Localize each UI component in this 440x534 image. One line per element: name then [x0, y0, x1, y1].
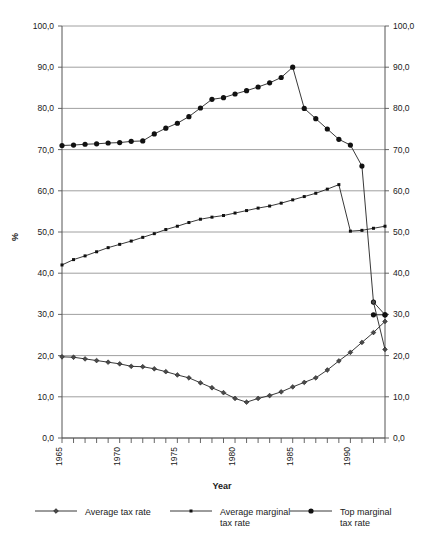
data-point-marker: [308, 508, 313, 513]
data-point-marker: [186, 375, 191, 380]
legend-item-2[interactable]: Top marginaltax rate: [290, 507, 392, 528]
x-tickmarks-group: [62, 438, 385, 443]
y-tick-label-right: 50,0: [393, 227, 410, 237]
data-point-marker: [349, 230, 352, 233]
y-tick-label-left: 100,0: [33, 21, 55, 31]
data-point-marker: [82, 142, 87, 147]
data-point-marker: [175, 121, 180, 126]
data-point-marker: [54, 509, 59, 514]
data-point-marker: [244, 400, 249, 405]
y-tick-label-right: 0,0: [393, 433, 405, 443]
data-point-marker: [83, 356, 88, 361]
data-point-marker: [176, 225, 179, 228]
data-point-marker: [106, 360, 111, 365]
legend-label: Top marginaltax rate: [340, 507, 392, 528]
legend-item-0[interactable]: Average tax rate: [35, 507, 151, 517]
data-point-marker: [267, 393, 272, 398]
y-tick-label-left: 80,0: [37, 103, 54, 113]
y-tick-label-right: 30,0: [393, 309, 410, 319]
data-point-marker: [302, 106, 307, 111]
data-point-marker: [337, 183, 340, 186]
y-axis-labels-right: 0,010,020,030,040,050,060,070,080,090,01…: [393, 21, 415, 443]
y-tick-label-right: 60,0: [393, 186, 410, 196]
x-tick-label: 1975: [169, 447, 179, 466]
data-point-marker: [360, 229, 363, 232]
data-point-marker: [117, 140, 122, 145]
y-axis-labels-left: 0,010,020,030,040,050,060,070,080,090,01…: [33, 21, 55, 443]
data-point-marker: [59, 143, 64, 148]
y-tick-label-right: 10,0: [393, 392, 410, 402]
series-line: [373, 302, 385, 349]
data-point-marker: [384, 225, 387, 228]
data-point-marker: [290, 65, 295, 70]
x-axis-labels: 196519701975198019851990: [54, 447, 352, 466]
data-point-marker: [72, 258, 75, 261]
data-point-marker: [326, 188, 329, 191]
y-tick-label-right: 90,0: [393, 62, 410, 72]
data-point-marker: [94, 358, 99, 363]
data-point-marker: [199, 218, 202, 221]
y-tick-label-left: 70,0: [37, 145, 54, 155]
data-point-marker: [94, 141, 99, 146]
series-1: [61, 183, 387, 266]
y-tick-label-left: 60,0: [37, 186, 54, 196]
data-point-marker: [222, 214, 225, 217]
data-point-marker: [383, 347, 388, 352]
data-series-layer: [59, 65, 387, 405]
data-point-marker: [163, 126, 168, 131]
data-point-marker: [280, 202, 283, 205]
data-point-marker: [95, 250, 98, 253]
y-tick-label-right: 40,0: [393, 268, 410, 278]
data-point-marker: [190, 510, 193, 513]
data-point-marker: [382, 312, 387, 317]
data-point-marker: [61, 263, 64, 266]
legend-item-1[interactable]: Average marginaltax rate: [170, 507, 290, 528]
legend-label: Average marginaltax rate: [220, 507, 290, 528]
data-point-marker: [106, 140, 111, 145]
y-tick-label-right: 80,0: [393, 103, 410, 113]
data-point-marker: [371, 312, 376, 317]
y-tick-label-left: 20,0: [37, 351, 54, 361]
data-point-marker: [153, 232, 156, 235]
data-point-marker: [291, 198, 294, 201]
y-tick-label-left: 90,0: [37, 62, 54, 72]
data-point-marker: [209, 97, 214, 102]
data-point-marker: [303, 195, 306, 198]
x-axis-title: Year: [212, 481, 232, 491]
data-point-marker: [279, 75, 284, 80]
data-point-marker: [267, 80, 272, 85]
y-tick-label-right: 70,0: [393, 145, 410, 155]
data-point-marker: [302, 380, 307, 385]
data-point-marker: [234, 212, 237, 215]
data-point-marker: [130, 240, 133, 243]
extra-series-1: [371, 312, 388, 317]
series-0: [60, 319, 388, 405]
data-point-marker: [372, 227, 375, 230]
data-point-marker: [336, 137, 341, 142]
y-tick-label-right: 100,0: [393, 21, 415, 31]
data-point-marker: [256, 84, 261, 89]
data-point-marker: [117, 361, 122, 366]
legend: Average tax rateAverage marginaltax rate…: [35, 507, 392, 528]
data-point-marker: [186, 114, 191, 119]
y-tick-label-left: 30,0: [37, 309, 54, 319]
data-point-marker: [268, 205, 271, 208]
data-point-marker: [163, 369, 168, 374]
data-point-marker: [244, 88, 249, 93]
gridlines-group: [62, 26, 385, 438]
data-point-marker: [71, 142, 76, 147]
y-axis-title: %: [10, 233, 20, 241]
x-tick-label: 1970: [112, 447, 122, 466]
data-point-marker: [152, 131, 157, 136]
data-point-marker: [257, 207, 260, 210]
data-point-marker: [348, 142, 353, 147]
data-point-marker: [175, 373, 180, 378]
tax-rate-line-chart: 0,010,020,030,040,050,060,070,080,090,01…: [0, 0, 440, 534]
data-point-marker: [198, 105, 203, 110]
data-point-marker: [279, 389, 284, 394]
series-line: [62, 185, 385, 265]
x-tick-label: 1980: [227, 447, 237, 466]
x-tick-label: 1965: [54, 447, 64, 466]
data-point-marker: [140, 138, 145, 143]
data-point-marker: [325, 126, 330, 131]
